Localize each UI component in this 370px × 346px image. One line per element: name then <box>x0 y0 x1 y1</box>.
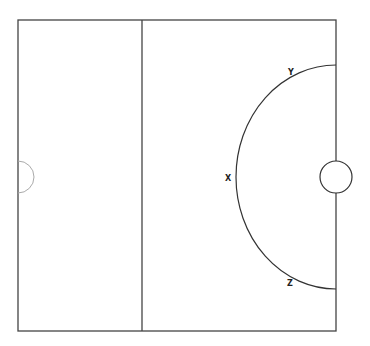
left-semicircle <box>18 161 34 193</box>
court-diagram: Y X Z <box>0 0 370 346</box>
label-x: X <box>225 174 232 183</box>
label-z: Z <box>287 279 293 288</box>
right-circle <box>320 161 352 193</box>
label-y: Y <box>287 68 294 77</box>
